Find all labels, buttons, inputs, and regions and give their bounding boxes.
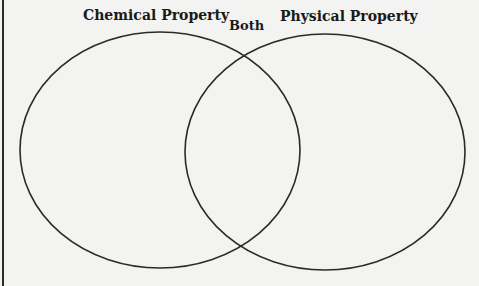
- both-label: Both: [229, 18, 264, 33]
- chemical-property-circle: [20, 32, 300, 268]
- venn-diagram: [0, 0, 479, 286]
- chemical-property-label: Chemical Property: [83, 7, 229, 23]
- physical-property-circle: [185, 34, 465, 270]
- physical-property-label: Physical Property: [280, 8, 418, 24]
